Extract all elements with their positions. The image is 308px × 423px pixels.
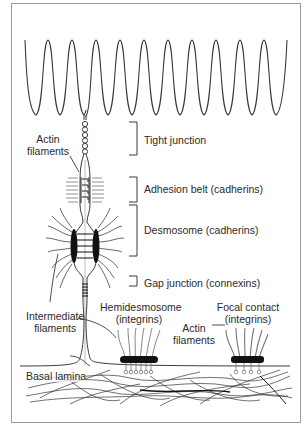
label-intermediate-filaments: Intermediate filaments — [26, 310, 84, 334]
label-line: (integrins) — [100, 313, 178, 325]
label-line: filaments — [26, 322, 84, 334]
label-line: filaments — [172, 334, 216, 346]
label-line: Actin — [172, 322, 216, 334]
focal-contact — [226, 328, 268, 374]
label-line: Focal contact — [216, 301, 280, 313]
label-desmosome: Desmosome (cadherins) — [144, 224, 258, 236]
label-gap-junction: Gap junction (connexins) — [144, 277, 260, 289]
label-tight-junction: Tight junction — [144, 134, 206, 146]
microvilli — [25, 40, 287, 116]
label-line: filaments — [26, 145, 70, 157]
label-line: (integrins) — [216, 313, 280, 325]
label-actin-filaments-top: Actin filaments — [26, 133, 70, 157]
label-line: Intermediate — [26, 310, 84, 322]
brackets — [129, 122, 137, 286]
label-adhesion-belt: Adhesion belt (cadherins) — [144, 183, 263, 195]
hemidesmosome — [118, 328, 160, 374]
label-actin-filaments-bottom: Actin filaments — [172, 322, 216, 346]
label-hemidesmosome: Hemidesmosome (integrins) — [100, 301, 178, 325]
label-line: Actin — [26, 133, 70, 145]
label-basal-lamina: Basal lamina — [26, 370, 86, 382]
label-focal-contact: Focal contact (integrins) — [216, 301, 280, 325]
label-line: Hemidesmosome — [100, 301, 178, 313]
